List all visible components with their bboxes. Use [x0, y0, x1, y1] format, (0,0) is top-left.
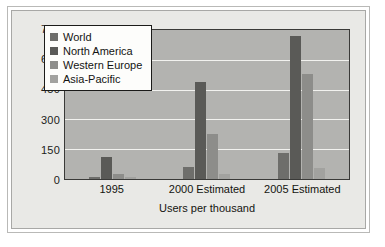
- bar: [219, 174, 230, 179]
- x-tick-label: 2000 Estimated: [169, 183, 245, 195]
- bar: [290, 36, 301, 179]
- bar: [89, 177, 100, 179]
- bar: [302, 74, 313, 179]
- x-axis-title: Users per thousand: [64, 202, 350, 214]
- legend-swatch-icon: [50, 47, 58, 55]
- legend-item: World: [50, 30, 142, 44]
- bar-group: [254, 30, 349, 179]
- bar: [278, 153, 289, 179]
- x-tick-label: 2005 Estimated: [264, 183, 340, 195]
- legend-swatch-icon: [50, 75, 58, 83]
- legend-label: Asia-Pacific: [63, 74, 120, 85]
- y-tick-label: 150: [41, 144, 60, 156]
- bar: [101, 157, 112, 179]
- y-tick-label: 300: [41, 114, 60, 126]
- legend-item: North America: [50, 44, 142, 58]
- x-tick-label: 1995: [99, 183, 123, 195]
- x-axis: 19952000 Estimated2005 Estimated: [64, 183, 350, 199]
- legend-swatch-icon: [50, 33, 58, 41]
- bar: [314, 168, 325, 179]
- legend-swatch-icon: [50, 61, 58, 69]
- bar: [207, 134, 218, 179]
- legend-label: North America: [63, 46, 133, 57]
- bar: [195, 82, 206, 179]
- legend-item: Asia-Pacific: [50, 72, 142, 86]
- legend-label: Western Europe: [63, 60, 142, 71]
- bar-group: [160, 30, 255, 179]
- bar: [125, 177, 136, 179]
- legend-label: World: [63, 32, 92, 43]
- figure-background: 0150300450600750 19952000 Estimated2005 …: [11, 10, 366, 229]
- chart-legend: WorldNorth AmericaWestern EuropeAsia-Pac…: [44, 25, 152, 91]
- bar: [183, 167, 194, 179]
- y-tick-label: 0: [54, 174, 60, 186]
- legend-item: Western Europe: [50, 58, 142, 72]
- bar: [113, 174, 124, 179]
- bar-chart: 0150300450600750 19952000 Estimated2005 …: [23, 17, 356, 222]
- figure-frame: 0150300450600750 19952000 Estimated2005 …: [7, 6, 370, 233]
